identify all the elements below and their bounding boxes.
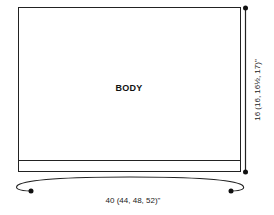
schematic-drawing bbox=[0, 0, 274, 215]
piece-label: BODY bbox=[0, 83, 258, 93]
width-dot-left bbox=[29, 189, 34, 194]
height-dot-top bbox=[243, 6, 248, 11]
width-dot-right bbox=[229, 189, 234, 194]
width-dimension-arc bbox=[17, 177, 244, 191]
height-measurement: 16 (16, 16½, 17)" bbox=[253, 59, 262, 121]
height-dot-bottom bbox=[243, 170, 248, 175]
width-measurement: 40 (44, 48, 52)" bbox=[0, 196, 266, 205]
